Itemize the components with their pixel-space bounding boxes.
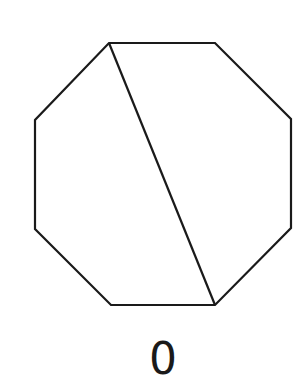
octagon-diagram — [0, 0, 299, 383]
figure-label: 0 — [140, 334, 186, 383]
diagonal-line — [109, 43, 215, 305]
